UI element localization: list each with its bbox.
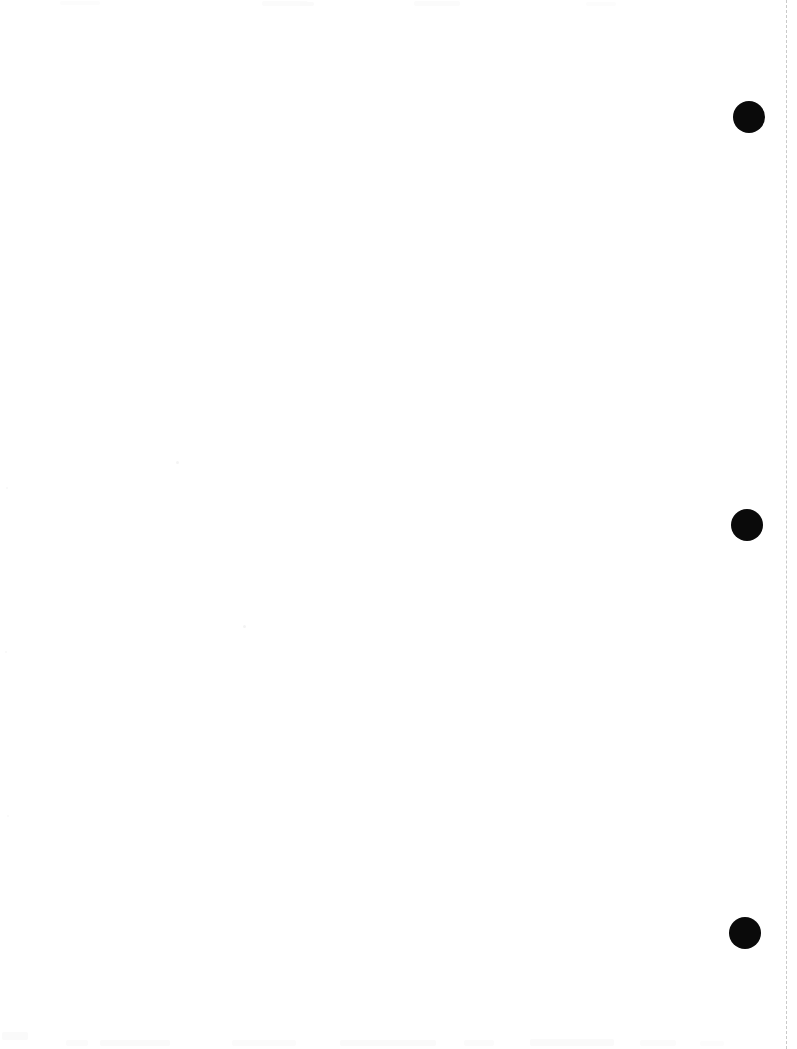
punch-mark-middle — [731, 509, 763, 541]
smudge-top-d — [414, 1, 460, 6]
speck-center — [243, 625, 246, 628]
speck-left-margin-b — [5, 651, 7, 653]
scanned-page — [0, 0, 797, 1049]
speck-left-margin-a — [6, 487, 8, 489]
speck-upper-left — [176, 461, 179, 464]
smudge-bottom-g — [530, 1039, 614, 1046]
smudge-top-a — [60, 1, 100, 5]
smudge-bottom-i — [700, 1041, 724, 1046]
smudge-bottom-b — [66, 1040, 88, 1046]
speck-left-margin-c — [7, 815, 9, 817]
smudge-bottom-d — [232, 1040, 296, 1046]
smudge-bottom-a — [2, 1032, 28, 1040]
smudge-bottom-e — [340, 1040, 436, 1046]
punch-mark-top — [733, 101, 765, 133]
smudge-bottom-f — [464, 1040, 494, 1046]
smudge-bottom-h — [640, 1040, 676, 1046]
page-body-text — [0, 0, 1, 1]
smudge-top-c — [300, 2, 314, 6]
punch-mark-bottom — [729, 917, 761, 949]
smudge-top-e — [586, 2, 616, 6]
smudge-bottom-c — [100, 1040, 170, 1046]
paper-surface — [0, 0, 797, 1049]
